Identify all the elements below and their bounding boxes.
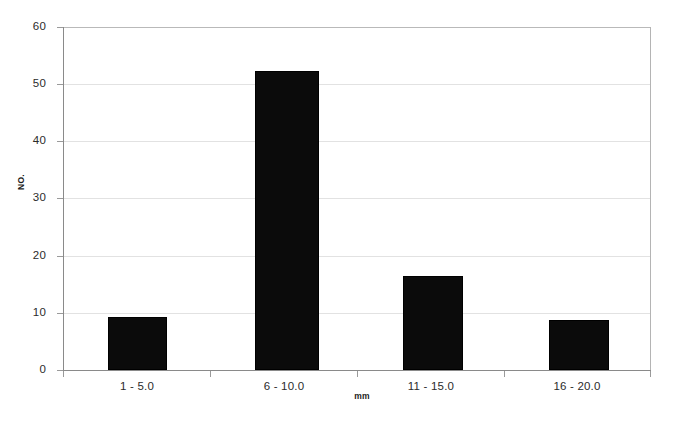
y-tick-label-20: 20 — [12, 249, 46, 261]
y-tick-label-60: 60 — [12, 20, 46, 32]
y-tick-mark-50 — [57, 84, 63, 85]
x-tick-label-6-10: 6 - 10.0 — [224, 380, 344, 392]
y-tick-label-40: 40 — [12, 134, 46, 146]
gridline-40 — [63, 141, 651, 142]
gridline-50 — [63, 84, 651, 85]
x-tick-mark-1 — [210, 371, 211, 377]
bar-16-20 — [549, 320, 609, 370]
y-tick-mark-30 — [57, 198, 63, 199]
plot-right-border — [650, 27, 651, 371]
x-axis-title: mm — [342, 391, 382, 401]
plot-top-border — [63, 27, 651, 28]
x-tick-mark-0 — [63, 371, 64, 377]
x-tick-label-1-5: 1 - 5.0 — [77, 380, 197, 392]
gridline-30 — [63, 198, 651, 199]
y-tick-label-50: 50 — [12, 77, 46, 89]
x-tick-mark-3 — [504, 371, 505, 377]
y-tick-mark-20 — [57, 256, 63, 257]
bar-6-10 — [255, 71, 319, 370]
bar-11-15 — [403, 276, 463, 370]
y-axis-title: NO. — [16, 174, 26, 190]
y-tick-mark-40 — [57, 141, 63, 142]
bar-chart: 60 50 40 30 20 10 0 NO. 1 - 5.0 6 - 10.0… — [0, 0, 680, 423]
y-tick-label-10: 10 — [12, 306, 46, 318]
y-tick-mark-10 — [57, 313, 63, 314]
y-tick-label-30: 30 — [12, 191, 46, 203]
gridline-10 — [63, 313, 651, 314]
y-axis-line — [63, 27, 64, 371]
y-tick-label-0: 0 — [12, 363, 46, 375]
y-tick-mark-60 — [57, 27, 63, 28]
x-tick-label-11-15: 11 - 15.0 — [371, 380, 491, 392]
x-tick-mark-4 — [650, 371, 651, 377]
x-tick-mark-2 — [357, 371, 358, 377]
bar-1-5 — [108, 317, 167, 370]
x-tick-label-16-20: 16 - 20.0 — [517, 380, 637, 392]
gridline-20 — [63, 256, 651, 257]
